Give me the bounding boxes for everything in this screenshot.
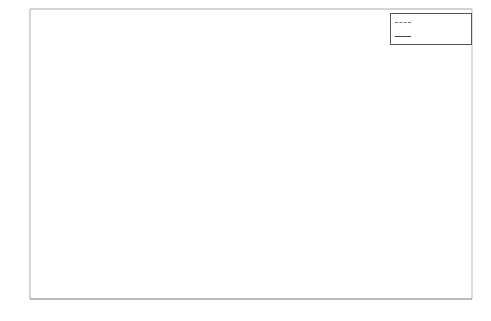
psd-chart <box>0 0 491 321</box>
plot-frame <box>30 9 472 299</box>
dashed-line-swatch-icon <box>395 22 411 23</box>
solid-line-swatch-icon <box>395 36 411 37</box>
legend <box>390 13 472 45</box>
legend-item-platform <box>395 29 414 43</box>
legend-item-source <box>395 15 414 29</box>
